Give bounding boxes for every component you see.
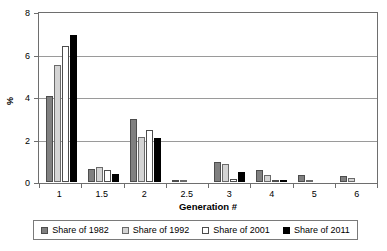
y-tick-label: 4 [8, 94, 30, 103]
bar-group [208, 14, 250, 182]
legend-item[interactable]: Share of 1992 [122, 225, 190, 235]
bar [238, 172, 245, 182]
bar [70, 35, 77, 182]
x-axis-title: Generation # [38, 201, 378, 212]
legend-item[interactable]: Share of 2001 [202, 225, 270, 235]
x-tick-label: 2.5 [166, 188, 209, 202]
y-tick-label: 0 [8, 179, 30, 188]
x-tick-label: 6 [336, 188, 379, 202]
bar [298, 175, 305, 182]
x-tick-label: 1.5 [81, 188, 124, 202]
bar-group [292, 14, 334, 182]
legend-label: Share of 1982 [52, 225, 109, 235]
bar [112, 174, 119, 182]
bar [272, 180, 279, 182]
bar [154, 138, 161, 182]
chart-legend: Share of 1982Share of 1992Share of 2001S… [33, 220, 358, 240]
bar [146, 130, 153, 182]
x-tick-label: 4 [251, 188, 294, 202]
bar-group [82, 14, 124, 182]
bar [340, 176, 347, 182]
bar-group [166, 14, 208, 182]
bar [54, 65, 61, 182]
legend-label: Share of 2011 [294, 225, 350, 235]
legend-swatch-icon [122, 227, 129, 234]
bar [214, 162, 221, 182]
bar [104, 170, 111, 182]
bar-group [40, 14, 82, 182]
x-axis-labels: 11.522.53456 [38, 188, 378, 202]
y-tick-label: 6 [8, 52, 30, 61]
bar [96, 167, 103, 182]
legend-item[interactable]: Share of 1982 [41, 225, 109, 235]
y-tick-label: 2 [8, 137, 30, 146]
bar [230, 179, 237, 182]
bar [256, 170, 263, 182]
bar [46, 96, 53, 182]
bar [280, 180, 287, 182]
legend-swatch-icon [41, 227, 48, 234]
y-tick-label: 8 [8, 9, 30, 18]
bar [130, 119, 137, 182]
bar [264, 175, 271, 182]
bar [306, 180, 313, 182]
bar [172, 180, 179, 182]
legend-swatch-icon [283, 227, 290, 234]
bar [88, 169, 95, 182]
x-tick-label: 2 [123, 188, 166, 202]
bar [180, 180, 187, 182]
plot-wrap [38, 12, 378, 184]
legend-item[interactable]: Share of 2011 [283, 225, 350, 235]
x-tick-label: 5 [293, 188, 336, 202]
bar-group [250, 14, 292, 182]
plot-area [38, 12, 378, 184]
x-tick-label: 1 [38, 188, 81, 202]
bar [348, 178, 355, 182]
bar-chart: % 02468 11.522.53456 Generation # Share … [0, 0, 387, 251]
bar [138, 137, 145, 182]
bar-groups [40, 14, 376, 182]
bar [222, 164, 229, 182]
legend-label: Share of 1992 [133, 225, 190, 235]
bar [62, 46, 69, 182]
bar-group [334, 14, 376, 182]
x-tick-label: 3 [208, 188, 251, 202]
legend-swatch-icon [202, 227, 209, 234]
bar-group [124, 14, 166, 182]
legend-label: Share of 2001 [213, 225, 270, 235]
